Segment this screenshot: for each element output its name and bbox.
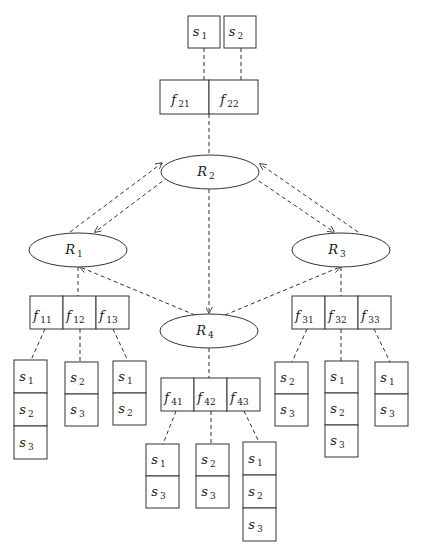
node-layer: s1s2R2R1R3R4f21f22f11f12f13f31f32f33f41f…	[14, 16, 408, 541]
dashed-connector	[244, 411, 259, 442]
site-stack-f43_sites: s1s2s3	[243, 442, 276, 541]
site-stack-f12_sites: s2s3	[65, 362, 98, 426]
dashed-arrow	[253, 177, 334, 232]
dashed-connector	[113, 329, 128, 361]
dashed-arrow	[70, 163, 162, 232]
site-box-s2_top: s2	[224, 16, 256, 48]
dashed-arrow	[260, 164, 358, 232]
relation-node-R2: R2	[161, 155, 259, 189]
dashed-connector	[374, 329, 390, 362]
distributed-query-diagram: s1s2R2R1R3R4f21f22f11f12f13f31f32f33f41f…	[0, 0, 425, 555]
fragment-row-F1: f11f12f13	[30, 296, 129, 329]
site-stack-f41_sites: s1s3	[146, 444, 179, 508]
site-stack-f33_sites: s1s3	[375, 362, 408, 426]
site-box-s1_top: s1	[188, 16, 220, 48]
fragment-row-F4: f41f42f43	[161, 378, 260, 411]
site-stack-f32_sites: s1s2s3	[325, 361, 358, 457]
site-stack-f31_sites: s2s3	[275, 362, 308, 426]
dashed-connector	[163, 411, 176, 444]
fragment-row-F2: f21f22	[160, 80, 258, 114]
relation-node-R4: R4	[160, 314, 258, 348]
dashed-connector	[292, 329, 307, 362]
relation-node-R3: R3	[292, 233, 390, 267]
site-stack-f11_sites: s1s2s3	[14, 360, 47, 459]
relation-node-R1: R1	[29, 233, 127, 267]
fragment-row-F3: f31f32f33	[292, 296, 391, 329]
site-stack-f13_sites: s1s2	[113, 361, 146, 425]
dashed-connector	[31, 329, 45, 360]
site-stack-f42_sites: s2s3	[196, 444, 229, 508]
